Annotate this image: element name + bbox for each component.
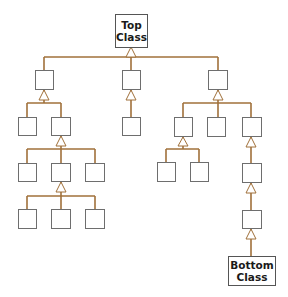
- class-box: [18, 117, 37, 136]
- class-box: [122, 117, 141, 136]
- class-box: [51, 117, 71, 136]
- class-box: [122, 70, 141, 90]
- class-box: [85, 209, 105, 229]
- class-box: [51, 209, 71, 229]
- class-box: [35, 70, 54, 90]
- bottom-class-label-line1: Bottom: [230, 259, 273, 271]
- bottom-class-label-line2: Class: [237, 271, 268, 283]
- top-class-label-line2: Class: [116, 31, 147, 43]
- class-box: [242, 163, 262, 183]
- class-box: [208, 70, 228, 90]
- class-box: [157, 162, 176, 182]
- class-box: [190, 162, 209, 182]
- class-box: [207, 117, 226, 137]
- class-box: [174, 117, 193, 137]
- class-box: [51, 163, 71, 182]
- class-box: [85, 163, 105, 182]
- top-class-box: Top Class: [115, 14, 148, 48]
- class-box: [18, 209, 37, 229]
- class-box: [242, 117, 262, 137]
- class-box: [18, 163, 37, 182]
- top-class-label-line1: Top: [121, 19, 142, 31]
- class-box: [242, 210, 262, 229]
- bottom-class-box: Bottom Class: [228, 256, 276, 286]
